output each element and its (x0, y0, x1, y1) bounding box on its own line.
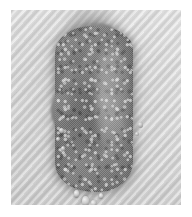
marginal-bead (56, 137, 60, 141)
specimen-rim-highlight (95, 38, 129, 158)
hanging-droplet (74, 190, 79, 198)
specimen (55, 26, 133, 192)
micrograph-plate (11, 10, 181, 205)
micrograph-figure: Grayscale micrograph of an elongated gra… (0, 0, 192, 217)
hanging-droplet (99, 193, 103, 199)
hanging-droplet (91, 200, 96, 205)
hanging-droplet (82, 196, 89, 205)
marginal-bead (59, 128, 64, 133)
marginal-bead (135, 132, 139, 136)
marginal-bead (138, 122, 143, 128)
marginal-bead (61, 146, 65, 151)
